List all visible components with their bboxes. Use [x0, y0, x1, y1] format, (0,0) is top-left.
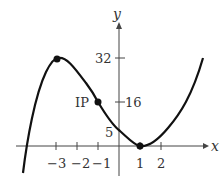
tick-x-neg2: −2	[71, 156, 90, 171]
x-axis-arrow-icon	[203, 143, 209, 149]
x-axis-label: x	[211, 138, 219, 154]
ip-label: IP	[75, 95, 89, 110]
y-axis-arrow-icon	[116, 22, 122, 29]
chart: x y −3 −2 −1 1 2 32 16 5 IP	[0, 0, 221, 191]
tick-x-neg3: −3	[47, 156, 66, 171]
point-local-max	[54, 56, 61, 63]
tick-y-32: 32	[95, 51, 112, 66]
tick-x-2: 2	[157, 156, 165, 171]
y-ticks	[115, 58, 125, 102]
tick-x-neg1: −1	[92, 156, 111, 171]
plot-svg: x y −3 −2 −1 1 2 32 16 5 IP	[0, 0, 221, 191]
tick-x-1: 1	[136, 156, 144, 171]
point-local-min	[137, 143, 144, 150]
tick-y-5: 5	[105, 125, 113, 140]
tick-y-16: 16	[125, 95, 142, 110]
y-axis-label: y	[112, 6, 122, 22]
point-inflection	[95, 99, 102, 106]
